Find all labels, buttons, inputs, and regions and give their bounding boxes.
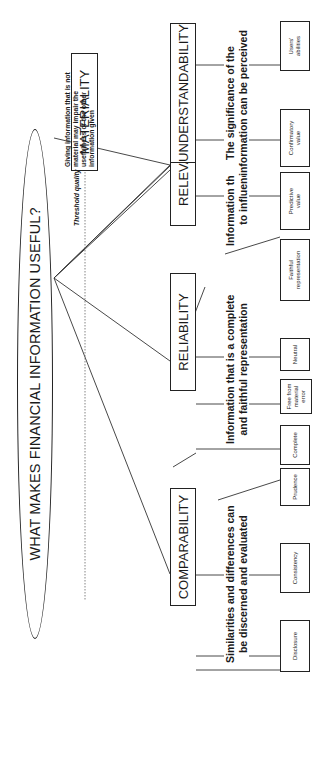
note-line: usefulness of the other [80, 72, 88, 167]
leaf-line: Consistency [292, 552, 299, 585]
reliability-label: RELIABILITY [176, 293, 191, 370]
leaf-line: abilities [295, 36, 302, 56]
leaf-line: Users' [288, 36, 295, 56]
central-question-ellipse: WHAT MAKES FINANCIAL INFORMATION USEFUL? [17, 129, 53, 639]
leaf-line: value [295, 188, 302, 214]
description-line: Information that is a complete [224, 295, 237, 444]
leaf-line: Neutral [292, 345, 299, 364]
leaf-confirmatory-value: Confirmatoryvalue [280, 109, 310, 167]
leaf-line: material [293, 384, 300, 410]
leaf-free-from-material-error: Free frommaterialerror [280, 379, 312, 414]
leaf-line: representation [295, 251, 302, 289]
leaf-faithful-representation: Faithfulrepresentation [280, 239, 310, 301]
leaf-line: Faithful [288, 251, 295, 289]
description-line: Similarities and differences can [224, 505, 237, 663]
reliability-description: Information that is a complete and faith… [224, 295, 249, 444]
leaf-predictive-value: Predictivevalue [280, 172, 310, 230]
diagram-canvas: WHAT MAKES FINANCIAL INFORMATION USEFUL?… [0, 0, 329, 771]
description-line: information can be perceived [237, 30, 250, 176]
leaf-disclosure: Disclosure [280, 620, 310, 672]
note-line: information given [88, 72, 96, 167]
leaf-line: Disclosure [292, 632, 299, 660]
comparability-description: Similarities and differences can be disc… [224, 505, 249, 663]
understandability-label: UNDERSTANDABILITY [176, 24, 191, 162]
leaf-line: Predictive [288, 188, 295, 214]
leaf-consistency: Consistency [280, 543, 310, 593]
reliability-box: RELIABILITY [170, 273, 196, 391]
comparability-label: COMPARABILITY [176, 495, 191, 600]
leaf-prudence: Prudence [280, 468, 310, 506]
leaf-line: value [295, 121, 302, 155]
threshold-quality-label: Threshold quality [73, 146, 81, 226]
leaf-complete: Complete [280, 425, 310, 465]
understandability-description: The significance of the information can … [224, 30, 249, 176]
leaf-line: error [300, 384, 307, 410]
leaf-line: Confirmatory [288, 121, 295, 155]
understandability-box: UNDERSTANDABILITY [170, 23, 196, 163]
leaf-line: Prudence [292, 474, 299, 500]
note-line: Giving information that is not [64, 72, 72, 167]
description-line: be discerned and evaluated [237, 505, 250, 663]
leaf-line: Complete [292, 432, 299, 458]
leaf-line: Free from [286, 384, 293, 410]
description-line: and faithful representation [237, 295, 250, 444]
leaf-neutral: Neutral [280, 338, 310, 371]
central-question: WHAT MAKES FINANCIAL INFORMATION USEFUL? [27, 207, 43, 560]
leaf-users-abilities: Users'abilities [280, 21, 310, 71]
comparability-box: COMPARABILITY [170, 488, 196, 606]
threshold-text: Threshold quality [73, 169, 80, 226]
description-line: The significance of the [224, 30, 237, 176]
